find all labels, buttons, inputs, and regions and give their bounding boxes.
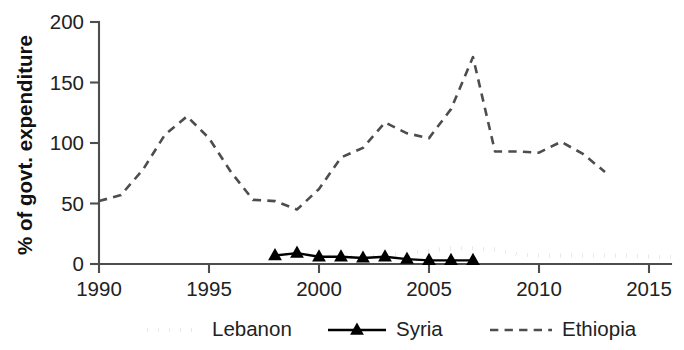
y-tick-label: 150 [50, 71, 84, 94]
data-point-marker [444, 253, 458, 265]
y-tick-label: 100 [50, 131, 84, 154]
chart-container: % of govt. expenditure 050100150200 1990… [0, 0, 684, 350]
series-ethiopia [99, 57, 605, 209]
legend-label: Syria [396, 317, 443, 340]
x-tick-label: 2015 [626, 277, 672, 300]
series-syria [268, 246, 480, 265]
legend-label: Lebanon [212, 317, 292, 340]
x-tick-label: 2000 [296, 277, 342, 300]
legend-item-ethiopia[interactable]: Ethiopia [490, 317, 637, 340]
chart-legend: LebanonSyriaEthiopia [147, 317, 637, 340]
series-line-ethiopia [99, 57, 605, 209]
y-axis-title-group: % of govt. expenditure [13, 35, 36, 255]
legend-marker-triangle [350, 323, 364, 335]
data-point-marker [334, 249, 348, 261]
x-tick-label: 2005 [406, 277, 452, 300]
legend-item-lebanon[interactable]: Lebanon [147, 317, 292, 340]
y-tick-label: 0 [73, 252, 84, 275]
series-line-syria [275, 253, 473, 260]
data-point-marker [466, 253, 480, 265]
x-tick-label: 1995 [186, 277, 232, 300]
y-tick-label: 200 [50, 10, 84, 33]
y-axis: 050100150200 [50, 10, 99, 275]
legend-item-syria[interactable]: Syria [328, 317, 443, 340]
legend-label: Ethiopia [562, 317, 637, 340]
line-chart-figure: % of govt. expenditure 050100150200 1990… [0, 0, 684, 350]
data-point-marker [290, 246, 304, 258]
x-tick-label: 1990 [76, 277, 122, 300]
data-point-marker [378, 249, 392, 261]
x-axis: 199019952000200520102015 [76, 264, 672, 300]
y-tick-label: 50 [61, 192, 84, 215]
x-tick-label: 2010 [516, 277, 562, 300]
y-axis-title: % of govt. expenditure [13, 35, 36, 255]
series-layer [99, 57, 671, 265]
